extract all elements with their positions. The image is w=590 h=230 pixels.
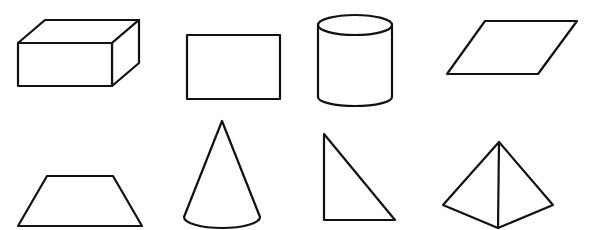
cylinder-shape (318, 15, 392, 106)
pyramid-shape (443, 142, 553, 228)
cuboid-shape (18, 20, 139, 86)
parallelogram-shape (447, 21, 577, 74)
shapes-figure (0, 0, 590, 230)
right-triangle-shape (324, 134, 395, 220)
rectangle-shape (187, 35, 280, 99)
cone-shape (184, 121, 260, 228)
trapezoid-shape (18, 176, 142, 226)
